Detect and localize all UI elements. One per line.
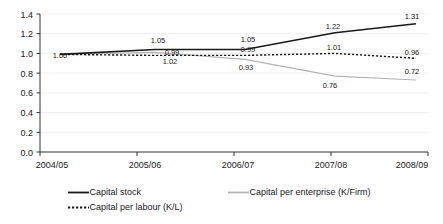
point-label-capital-stock: 1.05 bbox=[241, 35, 256, 44]
legend-label-capital-per-enterprise: Capital per enterprise (K/Firm) bbox=[250, 187, 371, 197]
legend-item-capital-stock[interactable]: Capital stock bbox=[68, 187, 142, 197]
y-tick-label: 1.2 bbox=[20, 29, 33, 39]
y-tick-label: 0.4 bbox=[20, 108, 33, 118]
axis-lines bbox=[40, 14, 428, 152]
y-tick-label: 1.4 bbox=[20, 10, 33, 20]
point-label-capital-stock: 1.22 bbox=[326, 22, 341, 31]
legend-label-capital-per-labour: Capital per labour (K/L) bbox=[90, 202, 183, 212]
point-label-origin: 1.00 bbox=[53, 51, 68, 60]
x-tick-label: 2008/09 bbox=[396, 160, 429, 170]
y-tick-label: 0.6 bbox=[20, 88, 33, 98]
legend-label-capital-stock: Capital stock bbox=[90, 187, 142, 197]
point-label-capital-per-labour: 0.99 bbox=[241, 45, 256, 54]
line-chart: 1.4 1.2 1.0 0.8 0.6 0.4 0.2 0.0 2004/05 … bbox=[0, 0, 443, 224]
x-tick-label: 2004/05 bbox=[36, 160, 69, 170]
y-tick-marks bbox=[37, 14, 41, 152]
y-tick-label: 0.2 bbox=[20, 128, 33, 138]
x-tick-marks bbox=[40, 152, 428, 156]
x-tick-label: 2006/07 bbox=[222, 160, 255, 170]
point-label-capital-stock: 1.31 bbox=[405, 12, 420, 21]
series-line-capital-stock bbox=[60, 24, 416, 55]
y-tick-label: 0.8 bbox=[20, 69, 33, 79]
x-tick-label: 2005/06 bbox=[129, 160, 162, 170]
chart-canvas: 1.4 1.2 1.0 0.8 0.6 0.4 0.2 0.0 2004/05 … bbox=[0, 0, 443, 224]
point-label-capital-per-labour: 0.99 bbox=[165, 48, 180, 57]
series-line-capital-per-labour bbox=[60, 53, 416, 58]
x-tick-label: 2007/08 bbox=[315, 160, 348, 170]
gridlines bbox=[40, 14, 428, 132]
legend-item-capital-per-enterprise[interactable]: Capital per enterprise (K/Firm) bbox=[228, 187, 371, 197]
point-label-capital-per-labour: 1.01 bbox=[327, 43, 342, 52]
y-tick-label: 0.0 bbox=[20, 148, 33, 158]
y-tick-label: 1.0 bbox=[20, 49, 33, 59]
point-label-capital-per-labour: 0.96 bbox=[405, 48, 420, 57]
point-label-capital-per-enterprise: 0.93 bbox=[239, 63, 254, 72]
legend-item-capital-per-labour[interactable]: Capital per labour (K/L) bbox=[68, 202, 183, 212]
point-label-capital-stock: 1.05 bbox=[151, 36, 166, 45]
point-label-capital-per-enterprise: 0.76 bbox=[323, 81, 338, 90]
chart-legend: Capital stock Capital per enterprise (K/… bbox=[68, 187, 371, 212]
point-label-capital-per-enterprise: 0.72 bbox=[405, 67, 420, 76]
point-label-capital-per-enterprise: 1.02 bbox=[163, 57, 178, 66]
